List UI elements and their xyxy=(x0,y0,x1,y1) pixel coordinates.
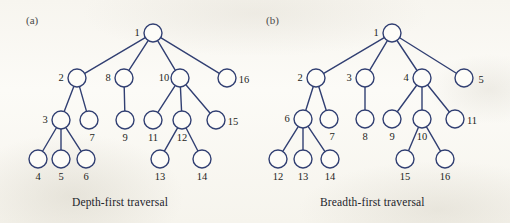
tree-edge xyxy=(283,127,298,152)
tree-node-4 xyxy=(29,150,47,168)
tree-node-14 xyxy=(193,150,211,168)
node-number-label-5: 5 xyxy=(478,74,483,85)
node-number-label-8: 8 xyxy=(105,72,110,83)
tree-edge xyxy=(306,87,314,111)
tree-edge xyxy=(400,38,457,73)
tree-node-6 xyxy=(294,110,312,128)
node-number-label-11: 11 xyxy=(148,132,158,143)
node-number-label-14: 14 xyxy=(197,171,208,182)
tree-edge xyxy=(43,128,57,152)
tree-edge xyxy=(64,86,74,111)
tree-node-7 xyxy=(320,110,338,128)
tree-edge xyxy=(426,127,440,151)
node-number-label-7: 7 xyxy=(329,131,334,142)
node-number-label-13: 13 xyxy=(298,171,309,182)
tree-edge xyxy=(319,87,327,111)
node-number-label-3: 3 xyxy=(346,72,351,83)
node-number-label-15: 15 xyxy=(400,171,411,182)
tree-node-1 xyxy=(144,24,162,42)
tree-node-2 xyxy=(307,69,325,87)
node-number-label-9: 9 xyxy=(389,131,394,142)
node-number-label-2: 2 xyxy=(58,72,63,83)
node-number-label-1: 1 xyxy=(373,27,378,38)
tree-edge xyxy=(158,86,175,113)
tree-node-4 xyxy=(413,69,431,87)
tree-edge xyxy=(397,40,417,70)
node-number-label-12: 12 xyxy=(177,132,188,143)
tree-traversal-figure: 12810163791112154561314(a)Depth-first tr… xyxy=(0,0,510,223)
node-number-label-3: 3 xyxy=(42,114,47,125)
tree-node-5 xyxy=(52,150,70,168)
panel-caption-2: Breadth-first traversal xyxy=(320,196,425,208)
tree-edge xyxy=(186,85,210,113)
tree-node-15 xyxy=(207,111,225,129)
tree-node-3 xyxy=(356,69,374,87)
tree-node-7 xyxy=(80,111,98,129)
node-number-label-5: 5 xyxy=(58,171,63,182)
tree-node-5 xyxy=(455,69,473,87)
tree-node-10 xyxy=(171,69,189,87)
tree-edge xyxy=(180,87,181,111)
tree-edge xyxy=(308,126,325,151)
tree-edge xyxy=(186,128,198,151)
node-number-label-10: 10 xyxy=(159,72,170,83)
node-number-label-13: 13 xyxy=(155,171,166,182)
tree-node-14 xyxy=(321,150,339,168)
node-number-label-4: 4 xyxy=(35,171,40,182)
node-number-label-10: 10 xyxy=(417,131,428,142)
tree-edge xyxy=(397,85,416,111)
tree-node-13 xyxy=(294,150,312,168)
tree-node-6 xyxy=(77,150,95,168)
tree-edge xyxy=(428,85,450,112)
tree-node-16 xyxy=(218,69,236,87)
node-number-label-15: 15 xyxy=(228,116,239,127)
node-number-label-8: 8 xyxy=(362,131,367,142)
tree-graphics-canvas xyxy=(0,0,510,223)
panel-2-edges xyxy=(283,38,457,152)
tree-node-2 xyxy=(68,69,86,87)
tree-edge xyxy=(161,38,220,74)
node-number-label-16: 16 xyxy=(440,171,451,182)
node-number-label-7: 7 xyxy=(89,132,94,143)
tree-node-12 xyxy=(269,150,287,168)
tree-edge xyxy=(324,38,385,74)
tree-node-11 xyxy=(446,110,464,128)
tree-node-16 xyxy=(436,150,454,168)
panel-tag-2: (b) xyxy=(266,14,279,26)
tree-node-12 xyxy=(173,111,191,129)
panel-tag-1: (a) xyxy=(26,14,38,26)
tree-node-8 xyxy=(356,110,374,128)
panel-1-edges xyxy=(43,38,220,152)
tree-node-3 xyxy=(52,111,70,129)
node-number-label-12: 12 xyxy=(273,171,284,182)
tree-edge xyxy=(124,87,125,111)
tree-node-10 xyxy=(413,110,431,128)
node-number-label-9: 9 xyxy=(122,132,127,143)
node-number-label-14: 14 xyxy=(325,171,336,182)
tree-node-11 xyxy=(144,111,162,129)
tree-node-1 xyxy=(383,24,401,42)
node-number-label-4: 4 xyxy=(403,72,408,83)
panel-caption-1: Depth-first traversal xyxy=(72,196,168,208)
node-number-label-2: 2 xyxy=(297,72,302,83)
nodes-layer xyxy=(29,24,473,168)
node-number-label-1: 1 xyxy=(134,27,139,38)
node-number-label-6: 6 xyxy=(284,113,289,124)
node-number-label-16: 16 xyxy=(239,74,250,85)
node-number-label-11: 11 xyxy=(467,115,477,126)
node-number-label-6: 6 xyxy=(83,171,88,182)
tree-edge xyxy=(85,38,146,74)
tree-edge xyxy=(79,87,86,112)
tree-node-9 xyxy=(116,111,134,129)
tree-node-9 xyxy=(383,110,401,128)
tree-node-13 xyxy=(151,150,169,168)
tree-node-15 xyxy=(396,150,414,168)
tree-node-8 xyxy=(115,69,133,87)
tree-edge xyxy=(164,128,177,151)
tree-edge xyxy=(66,128,81,152)
